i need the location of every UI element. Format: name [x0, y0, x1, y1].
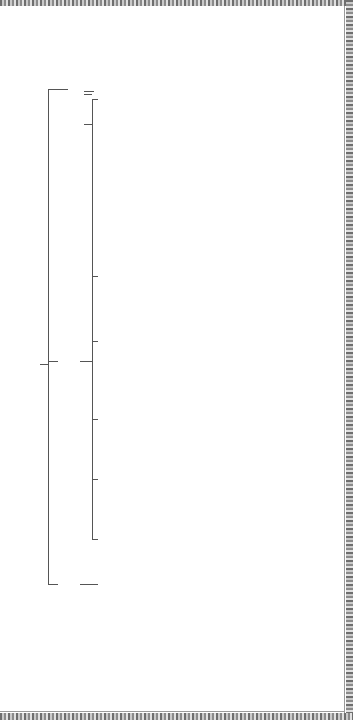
connector-line [48, 89, 68, 90]
connector-line [92, 276, 98, 277]
connector-line [92, 341, 98, 342]
connector-line [48, 361, 58, 362]
connector-line [92, 539, 98, 540]
sibling-bar-gen1 [48, 90, 49, 585]
connector-line [80, 361, 92, 362]
family-tree [0, 0, 357, 725]
connector-line [40, 364, 48, 365]
connector-line [92, 479, 98, 480]
connector-line [92, 99, 98, 100]
connector-line [92, 419, 98, 420]
connector-line [48, 584, 58, 585]
connector-line [84, 124, 92, 125]
connector-line [80, 584, 98, 585]
sibling-bar-owain-children [92, 100, 93, 540]
connector-line [84, 94, 92, 95]
connector-line [84, 91, 94, 92]
